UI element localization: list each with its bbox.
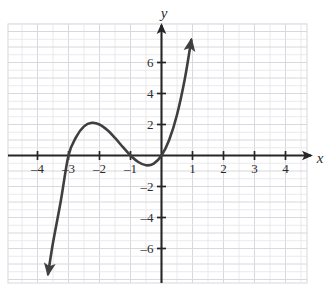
coordinate-plane-graph: –4–3–2–11234642–2–4–6 x y xyxy=(0,0,335,297)
y-tick-label: 2 xyxy=(147,117,154,132)
x-tick-label: 2 xyxy=(220,161,227,176)
x-axis-label: x xyxy=(316,150,324,166)
x-tick-label: –4 xyxy=(30,161,45,176)
y-tick-label: –4 xyxy=(140,210,155,225)
x-tick-label: 1 xyxy=(189,161,196,176)
x-tick-label: –2 xyxy=(92,161,106,176)
x-tick-label: –1 xyxy=(123,161,137,176)
y-tick-label: 6 xyxy=(147,55,154,70)
x-tick-label: 3 xyxy=(251,161,258,176)
y-tick-label: 4 xyxy=(147,86,154,101)
y-axis-label: y xyxy=(159,5,168,21)
y-tick-label: –6 xyxy=(140,241,155,256)
x-tick-label: –3 xyxy=(61,161,75,176)
x-tick-label: 4 xyxy=(282,161,289,176)
y-tick-label: –2 xyxy=(140,179,154,194)
chart-canvas: –4–3–2–11234642–2–4–6 x y xyxy=(0,0,335,297)
